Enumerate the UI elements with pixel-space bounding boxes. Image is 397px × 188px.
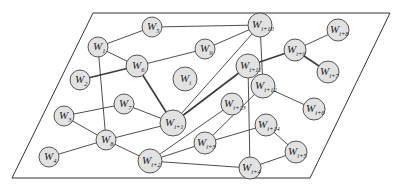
node-W3: W3: [54, 106, 74, 126]
node-W2: W2: [70, 70, 90, 90]
node-Wi6: Wi+6: [303, 98, 325, 120]
node-W7: W7: [114, 94, 134, 114]
node-W9: W9: [195, 39, 215, 59]
node-Wi8: Wi+8: [327, 19, 349, 41]
node-W6: W6: [126, 55, 148, 77]
node-Wi2: Wi+2: [138, 149, 162, 173]
node-W8: W8: [96, 130, 116, 150]
network-diagram: W1W5W6W9WiWi+10Wi+9Wi+8Wi+7Wi+11Wi+12Wi+…: [0, 0, 397, 188]
node-Wi1: Wi+1: [160, 110, 186, 136]
node-W5: W5: [142, 17, 162, 37]
node-Wi4: Wi+4: [239, 157, 261, 179]
diagram-svg: W1W5W6W9WiWi+10Wi+9Wi+8Wi+7Wi+11Wi+12Wi+…: [0, 0, 397, 188]
node-W4: W4: [39, 147, 59, 167]
node-Wi5: Wi+5: [285, 141, 307, 163]
node-W1: W1: [88, 37, 108, 57]
node-Wi9: Wi+9: [284, 39, 306, 61]
node-Wi3: Wi+3: [194, 132, 216, 154]
node-Wi7: Wi+7: [317, 61, 339, 83]
node-Wi: Wi: [173, 67, 197, 91]
